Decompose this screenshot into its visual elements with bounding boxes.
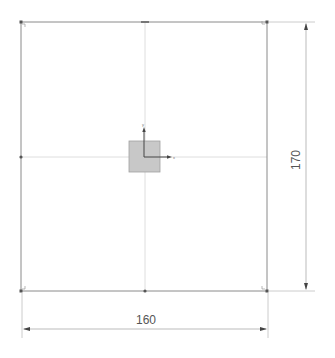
x-axis-arrowhead-icon xyxy=(167,155,172,158)
corner-point-top-right[interactable] xyxy=(266,21,269,24)
midpoint-top[interactable] xyxy=(141,21,149,23)
dimension-value-vertical[interactable]: 170 xyxy=(289,150,303,170)
x-axis-label: x xyxy=(173,155,175,160)
arrowhead-right-icon xyxy=(260,327,267,331)
corner-point-top-left[interactable] xyxy=(20,21,23,24)
corner-point-bottom-left[interactable] xyxy=(20,290,23,293)
arrowhead-up-icon xyxy=(304,23,308,30)
perpendicular-constraint-icon xyxy=(22,286,25,289)
midpoint-bottom[interactable] xyxy=(143,289,146,292)
perpendicular-constraint-icon xyxy=(262,286,265,289)
arrowhead-down-icon xyxy=(304,283,308,290)
dimension-vertical[interactable]: 170 xyxy=(269,22,315,291)
sketch-svg: y x 170 160 xyxy=(0,0,335,358)
midpoint-left[interactable] xyxy=(19,155,22,158)
perpendicular-constraint-icon xyxy=(22,24,25,27)
sketch-canvas[interactable]: y x 170 160 xyxy=(0,0,335,358)
y-axis-label: y xyxy=(142,122,144,127)
dimension-horizontal[interactable]: 160 xyxy=(22,293,268,338)
arrowhead-left-icon xyxy=(23,327,30,331)
corner-point-bottom-right[interactable] xyxy=(266,290,269,293)
dimension-value-horizontal[interactable]: 160 xyxy=(136,313,156,327)
